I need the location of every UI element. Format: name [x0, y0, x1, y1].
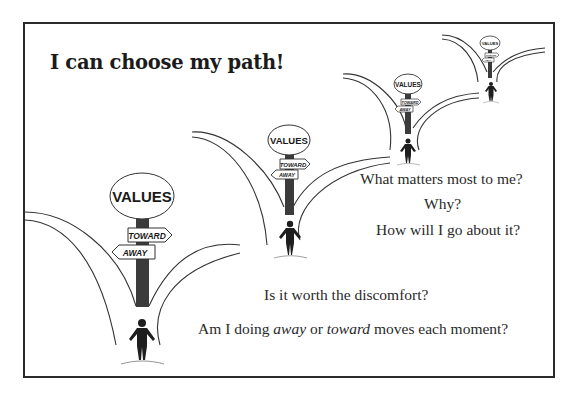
- toward-word: toward: [327, 320, 370, 337]
- away-word: away: [273, 320, 306, 337]
- q5-mid: or: [306, 320, 327, 337]
- away-label-tiny: AWAY: [485, 59, 492, 62]
- away-label-medium: AWAY: [278, 172, 296, 178]
- values-label-medium: VALUES: [270, 135, 308, 146]
- q5-prefix: Am I doing: [198, 320, 273, 337]
- away-label-large: AWAY: [122, 248, 149, 258]
- person-icon-medium: [279, 221, 301, 255]
- toward-label-small: TOWARD: [402, 101, 419, 105]
- question-away-or-toward: Am I doing away or toward moves each mom…: [198, 320, 508, 338]
- person-icon-small: [400, 139, 416, 164]
- values-label-tiny: VALUES: [482, 41, 499, 46]
- toward-label-tiny: TOWARD: [486, 54, 497, 57]
- question-how: How will I go about it?: [376, 221, 520, 239]
- signpost-tiny: VALUES TOWARD AWAY: [480, 36, 500, 103]
- person-icon-tiny: [485, 82, 497, 101]
- values-label-small: VALUES: [395, 81, 422, 88]
- toward-label-large: TOWARD: [128, 231, 166, 241]
- page-title: I can choose my path!: [50, 51, 284, 74]
- values-label-large: VALUES: [112, 188, 172, 205]
- q5-suffix: moves each moment?: [370, 320, 508, 337]
- toward-label-medium: TOWARD: [280, 162, 307, 168]
- question-worth-discomfort: Is it worth the discomfort?: [264, 286, 428, 304]
- person-icon-large: [129, 319, 155, 360]
- question-what-matters: What matters most to me?: [360, 170, 523, 188]
- away-label-small: AWAY: [399, 108, 411, 112]
- question-why: Why?: [424, 195, 461, 213]
- signpost-small: VALUES TOWARD AWAY: [394, 74, 422, 165]
